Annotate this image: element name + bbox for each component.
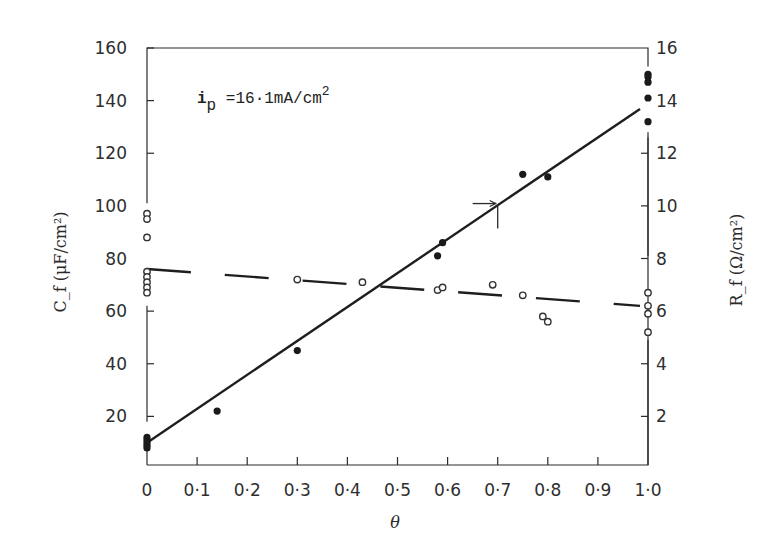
y-left-tick-label: 80 bbox=[105, 249, 127, 269]
chart: 00·10·20·30·40·50·60·70·80·91·0204060801… bbox=[0, 0, 770, 548]
rf-data-point bbox=[645, 290, 651, 296]
cf-data-point bbox=[644, 71, 651, 78]
axis-ticks bbox=[147, 48, 648, 465]
y-right-tick-label: 16 bbox=[656, 38, 678, 58]
x-tick-label: 0·5 bbox=[384, 480, 411, 500]
rf-data-point bbox=[294, 276, 300, 282]
rf-data-point bbox=[489, 282, 495, 288]
cf-data-point bbox=[439, 239, 446, 246]
y-right-tick-label: 2 bbox=[656, 406, 667, 426]
y-left-tick-label: 40 bbox=[105, 354, 127, 374]
x-tick-label: 0·1 bbox=[184, 480, 211, 500]
rf-data-point bbox=[359, 279, 365, 285]
x-tick-label: 0 bbox=[142, 480, 153, 500]
y-right-tick-label: 10 bbox=[656, 196, 678, 216]
rf-data-point bbox=[645, 311, 651, 317]
fit-lines bbox=[147, 109, 640, 443]
axis-labels: 00·10·20·30·40·50·60·70·80·91·0204060801… bbox=[51, 38, 746, 532]
cf-data-point bbox=[644, 118, 651, 125]
rf-data-point bbox=[439, 284, 445, 290]
y-right-tick-label: 6 bbox=[656, 301, 667, 321]
y-right-tick-label: 12 bbox=[656, 143, 678, 163]
cf-data-point bbox=[644, 94, 651, 101]
cf-data-point bbox=[519, 171, 526, 178]
x-tick-label: 1·0 bbox=[634, 480, 661, 500]
cf-data-point bbox=[544, 173, 551, 180]
y-right-tick-label: 8 bbox=[656, 249, 667, 269]
y-left-tick-label: 100 bbox=[95, 196, 127, 216]
y-right-axis-title: R_f (Ω/cm²) bbox=[727, 214, 746, 307]
current-density-annotation: ip =16·1mA/cm2 bbox=[197, 84, 330, 115]
y-left-axis-title: C_f (μF/cm²) bbox=[51, 211, 70, 312]
x-tick-label: 0·2 bbox=[234, 480, 261, 500]
rf-data-point bbox=[144, 234, 150, 240]
y-left-tick-label: 60 bbox=[105, 301, 127, 321]
cf-data-point bbox=[294, 347, 301, 354]
y-left-tick-label: 140 bbox=[95, 91, 127, 111]
axis-frame-bottom-right bbox=[147, 132, 648, 465]
rf-data-point bbox=[520, 292, 526, 298]
cf-data-point bbox=[434, 252, 441, 259]
rf-data-point bbox=[540, 313, 546, 319]
x-tick-label: 0·7 bbox=[484, 480, 511, 500]
cf-fit-line bbox=[147, 109, 640, 443]
rf-data-point bbox=[645, 303, 651, 309]
rf-data-point bbox=[545, 318, 551, 324]
x-tick-label: 0·4 bbox=[334, 480, 361, 500]
x-tick-label: 0·8 bbox=[534, 480, 561, 500]
axes-frame bbox=[147, 48, 648, 465]
y-left-tick-label: 120 bbox=[95, 143, 127, 163]
x-tick-label: 0·3 bbox=[284, 480, 311, 500]
x-tick-label: 0·9 bbox=[584, 480, 611, 500]
x-tick-label: 0·6 bbox=[434, 480, 461, 500]
rf-data-point bbox=[645, 329, 651, 335]
y-left-tick-label: 20 bbox=[105, 406, 127, 426]
cf-data-point bbox=[214, 408, 221, 415]
y-left-tick-label: 160 bbox=[95, 38, 127, 58]
rf-data-point bbox=[144, 216, 150, 222]
cf-data-point bbox=[143, 434, 150, 441]
x-axis-title: θ bbox=[390, 513, 400, 532]
y-right-tick-label: 14 bbox=[656, 91, 678, 111]
y-right-tick-label: 4 bbox=[656, 354, 667, 374]
axis-frame-top bbox=[147, 48, 648, 203]
rf-data-point bbox=[144, 290, 150, 296]
